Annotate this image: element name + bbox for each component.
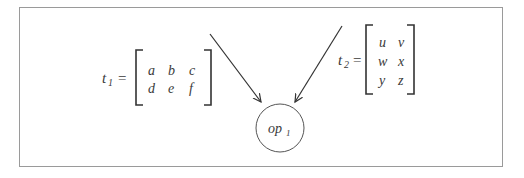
t1-cell: b	[168, 63, 175, 78]
right-bracket-icon	[407, 25, 414, 94]
op1-subscript: 1	[286, 128, 291, 138]
t1-cell: d	[148, 81, 156, 96]
op1-name: op	[268, 121, 282, 136]
t1-name: t	[102, 70, 107, 86]
right-bracket-icon	[204, 50, 211, 105]
edge-t2-to-op1-arrow	[295, 26, 342, 102]
t1-cell: e	[168, 81, 174, 96]
t2-subscript: 2	[344, 59, 349, 70]
edge-t1-to-op1-arrow	[210, 34, 261, 102]
matrix-t2-label: t 2 =	[338, 52, 361, 70]
t2-cell: z	[397, 73, 404, 88]
t2-cell: w	[378, 54, 388, 69]
t2-cell: x	[397, 54, 405, 69]
t1-cell: f	[189, 81, 195, 96]
op1-node: op 1	[256, 104, 304, 152]
t2-cell: y	[377, 73, 386, 88]
t1-equals: =	[118, 70, 126, 86]
matrix-t1-label: t 1 =	[102, 70, 126, 88]
t1-subscript: 1	[108, 77, 113, 88]
t2-cell: u	[379, 35, 386, 50]
t1-cell: c	[189, 63, 196, 78]
t1-cell: a	[148, 63, 155, 78]
t2-cell: v	[398, 35, 405, 50]
t2-name: t	[338, 52, 343, 68]
t2-equals: =	[353, 52, 361, 68]
diagram-canvas: t 1 = a b c d e f t 2 = u v w x y z	[0, 0, 524, 178]
matrix-t2-brackets	[366, 25, 414, 94]
matrix-t1-entries: a b c d e f	[148, 63, 196, 96]
left-bracket-icon	[136, 50, 143, 105]
matrix-t2-entries: u v w x y z	[377, 35, 405, 88]
left-bracket-icon	[366, 25, 373, 94]
